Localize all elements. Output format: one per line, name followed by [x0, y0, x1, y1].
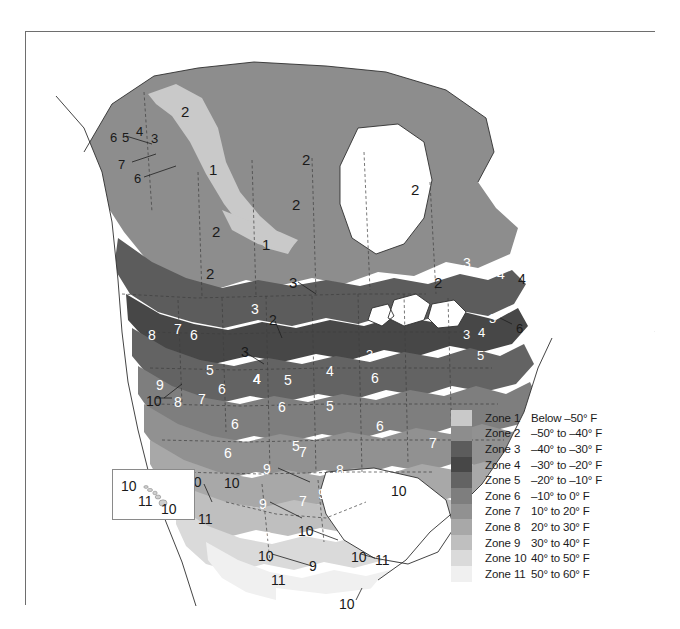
- legend-zone-name: Zone 7: [485, 505, 531, 517]
- legend-zone-name: Zone 5: [485, 474, 531, 486]
- map-zone-label-6: 6: [110, 131, 117, 144]
- map-zone-label-6: 6: [218, 382, 226, 396]
- map-zone-label-9: 9: [309, 559, 317, 573]
- map-zone-label-3: 3: [366, 348, 373, 361]
- legend-row: Zone 5–20° to –10° F: [451, 472, 646, 488]
- hawaii-zone-label-10: 10: [121, 479, 137, 493]
- map-zone-label-7: 7: [174, 322, 182, 336]
- map-zone-label-4: 4: [326, 364, 334, 378]
- map-zone-label-2: 2: [434, 275, 442, 290]
- map-zone-label-3: 3: [463, 256, 471, 270]
- map-zone-label-3: 3: [151, 132, 158, 145]
- map-zone-label-7: 7: [299, 445, 307, 459]
- map-zone-label-5: 5: [520, 292, 528, 306]
- map-zone-label-11: 11: [271, 573, 286, 587]
- map-zone-label-6: 6: [278, 400, 286, 414]
- map-zone-label-8: 8: [264, 530, 272, 544]
- map-zone-label-9: 9: [156, 378, 164, 392]
- legend-row: Zone 820° to 30° F: [451, 519, 646, 535]
- legend-zone-name: Zone 2: [485, 427, 531, 439]
- map-zone-label-2: 2: [206, 266, 214, 281]
- legend-swatch: [451, 535, 472, 551]
- zone-2-region: [84, 62, 518, 290]
- map-zone-label-2: 2: [302, 152, 310, 167]
- legend-zone-name: Zone 9: [485, 537, 531, 549]
- map-frame: 6543762122221233232344536343587635446454…: [25, 31, 655, 605]
- legend-row: Zone 2–50° to –40° F: [451, 426, 646, 442]
- map-zone-label-7: 7: [429, 436, 437, 450]
- map-zone-label-6: 6: [516, 322, 523, 335]
- legend-row: Zone 1150° to 60° F: [451, 566, 646, 582]
- map-zone-label-6: 6: [190, 328, 198, 342]
- legend-zone-name: Zone 8: [485, 521, 531, 533]
- hawaii-zone-label-10: 10: [161, 502, 177, 516]
- map-zone-label-5: 5: [206, 363, 214, 377]
- map-zone-label-2: 2: [212, 224, 220, 239]
- map-zone-label-5: 5: [284, 373, 292, 387]
- legend-swatch: [451, 488, 472, 504]
- legend-temperature-range: 20° to 30° F: [531, 521, 590, 533]
- map-zone-label-2: 2: [269, 313, 277, 327]
- map-zone-label-10: 10: [351, 550, 367, 564]
- map-zone-label-4: 4: [497, 267, 505, 281]
- map-zone-label-10: 10: [146, 394, 162, 408]
- legend-swatch: [451, 441, 472, 457]
- hawaii-inset: 101110: [112, 469, 195, 520]
- map-zone-label-5: 5: [122, 131, 129, 144]
- map-zone-label-7: 7: [198, 392, 206, 406]
- legend-swatch: [451, 410, 472, 426]
- map-zone-label-7: 7: [118, 158, 125, 171]
- legend-zone-name: Zone 6: [485, 490, 531, 502]
- legend-swatch: [451, 426, 472, 442]
- map-zone-label-9: 9: [263, 462, 271, 476]
- map-zone-label-7: 7: [299, 494, 307, 508]
- map-zone-label-6: 6: [224, 446, 232, 460]
- map-zone-label-8: 8: [174, 395, 182, 409]
- legend-temperature-range: 10° to 20° F: [531, 505, 590, 517]
- legend-zone-name: Zone 1: [485, 412, 531, 424]
- legend-temperature-range: –30° to –20° F: [531, 459, 602, 471]
- legend-row: Zone 4–30° to –20° F: [451, 457, 646, 473]
- legend-temperature-range: 40° to 50° F: [531, 552, 590, 564]
- map-zone-label-1: 1: [262, 237, 270, 252]
- map-zone-label-2: 2: [292, 197, 300, 212]
- map-zone-label-3: 3: [251, 302, 259, 316]
- legend-row: Zone 1Below –50° F: [451, 410, 646, 426]
- legend-swatch: [451, 457, 472, 473]
- map-zone-label-3: 3: [463, 328, 470, 341]
- legend-zone-name: Zone 10: [485, 552, 531, 564]
- legend-swatch: [451, 566, 472, 582]
- map-zone-label-3: 3: [241, 345, 249, 359]
- legend-temperature-range: Below –50° F: [531, 412, 597, 424]
- legend: Zone 1Below –50° FZone 2–50° to –40° FZo…: [451, 410, 646, 582]
- map-zone-label-2: 2: [411, 182, 419, 197]
- map-zone-label-11: 11: [198, 512, 213, 526]
- map-zone-label-10: 10: [391, 484, 407, 498]
- legend-swatch: [451, 519, 472, 535]
- map-zone-label-8: 8: [148, 328, 156, 342]
- legend-swatch: [451, 550, 472, 566]
- map-zone-label-6: 6: [231, 417, 239, 431]
- map-zone-label-5: 5: [326, 399, 334, 413]
- legend-row: Zone 1040° to 50° F: [451, 550, 646, 566]
- map-zone-label-6: 6: [134, 172, 141, 185]
- legend-zone-name: Zone 4: [485, 459, 531, 471]
- legend-row: Zone 3–40° to –30° F: [451, 441, 646, 457]
- map-zone-label-10: 10: [298, 524, 314, 538]
- legend-zone-name: Zone 11: [485, 568, 531, 580]
- legend-temperature-range: –10° to 0° F: [531, 490, 590, 502]
- map-zone-label-6: 6: [376, 419, 384, 433]
- legend-temperature-range: –20° to –10° F: [531, 474, 602, 486]
- map-zone-label-3: 3: [489, 312, 496, 325]
- map-zone-label-4: 4: [253, 372, 261, 386]
- map-zone-label-8: 8: [336, 463, 344, 477]
- map-zone-label-6: 6: [371, 371, 379, 385]
- legend-zone-name: Zone 3: [485, 443, 531, 455]
- map-zone-label-9: 9: [318, 487, 326, 501]
- legend-temperature-range: –50° to –40° F: [531, 427, 602, 439]
- map-zone-label-1: 1: [209, 162, 217, 177]
- map-zone-label-4: 4: [136, 125, 143, 138]
- figure-plate: 6543762122221233232344536343587635446454…: [0, 0, 680, 629]
- map-zone-label-2: 2: [181, 104, 189, 119]
- map-zone-label-10: 10: [224, 476, 240, 490]
